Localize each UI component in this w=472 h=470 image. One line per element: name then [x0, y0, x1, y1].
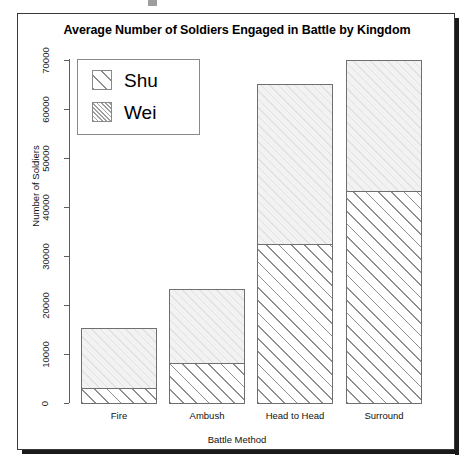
legend-label-shu: Shu: [124, 71, 158, 90]
y-axis-title-label: Number of Soldiers: [30, 145, 41, 226]
y-axis-tick-label: 70000: [30, 54, 60, 66]
legend-swatch-shu-icon: [92, 70, 112, 90]
bar-segment-wei[interactable]: [81, 388, 157, 404]
y-axis-title: Number of Soldiers: [28, 121, 42, 251]
y-axis-tick: [64, 158, 69, 159]
bar-segment-shu[interactable]: [346, 60, 422, 192]
legend-label-wei: Wei: [124, 103, 156, 122]
bar-segment-shu[interactable]: [81, 328, 157, 389]
plot-area: 700006000050000400003000020000100000 Num…: [18, 14, 456, 451]
y-axis-tick-label-text: 10000: [39, 341, 50, 367]
y-axis-tick-label-text: 20000: [39, 292, 50, 318]
y-axis-tick-label: 0: [30, 397, 60, 409]
chart-panel: Average Number of Soldiers Engaged in Ba…: [17, 13, 455, 450]
y-axis-tick-label-text: 0: [39, 400, 50, 405]
bar-segment-wei[interactable]: [169, 363, 245, 404]
y-axis-tick: [64, 60, 69, 61]
bar-segment-wei[interactable]: [257, 244, 333, 404]
bar-segment-shu[interactable]: [169, 289, 245, 364]
legend-item-shu: Shu: [92, 70, 158, 90]
y-axis-tick: [64, 354, 69, 355]
y-axis-tick: [64, 109, 69, 110]
legend-item-wei: Wei: [92, 102, 156, 122]
y-axis-tick: [64, 403, 69, 404]
y-axis-tick-label-text: 60000: [39, 96, 50, 122]
y-axis-tick-label: 20000: [30, 299, 60, 311]
y-axis-tick: [64, 256, 69, 257]
y-axis-tick-label: 10000: [30, 348, 60, 360]
y-axis-tick: [64, 305, 69, 306]
x-axis-title-label: Battle Method: [18, 434, 456, 445]
bar-segment-wei[interactable]: [346, 191, 422, 404]
y-axis-tick-label: 60000: [30, 103, 60, 115]
chart-legend: Shu Wei: [77, 59, 200, 135]
image-artifact: [148, 0, 157, 6]
bar-segment-shu[interactable]: [257, 84, 333, 245]
x-axis-tick-label: Surround: [326, 410, 442, 421]
y-axis-tick-label: 30000: [30, 250, 60, 262]
y-axis-line: [69, 59, 70, 403]
y-axis-tick: [64, 207, 69, 208]
legend-swatch-wei-icon: [92, 102, 112, 122]
y-axis-tick-label-text: 70000: [39, 47, 50, 73]
